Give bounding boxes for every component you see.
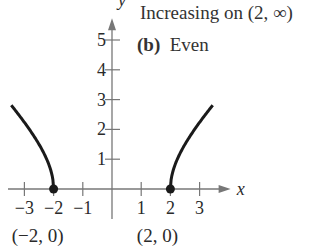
y-axis-arrow — [108, 18, 116, 30]
y-tick-label: 2 — [97, 119, 106, 139]
curve-right-branch — [170, 105, 212, 189]
curve-left-branch — [11, 105, 53, 189]
point-label: (2, 0) — [137, 225, 178, 247]
x-axis-arrow — [219, 185, 231, 193]
y-axis-label: y — [116, 0, 126, 10]
chart: xy−3−2−112312345(−2, 0)(2, 0) — [0, 0, 314, 249]
point-marker — [49, 185, 58, 194]
x-tick-label: 3 — [195, 198, 204, 218]
point-label: (−2, 0) — [12, 225, 64, 247]
x-tick-label: 1 — [137, 198, 146, 218]
x-tick-label: −1 — [73, 198, 92, 218]
x-tick-label: −2 — [44, 198, 63, 218]
y-tick-label: 5 — [97, 30, 106, 50]
y-tick-label: 3 — [97, 90, 106, 110]
x-tick-label: −3 — [15, 198, 34, 218]
y-tick-label: 1 — [97, 149, 106, 169]
x-tick-label: 2 — [166, 198, 175, 218]
x-axis-label: x — [236, 179, 245, 199]
y-tick-label: 4 — [97, 60, 106, 80]
point-marker — [166, 185, 175, 194]
